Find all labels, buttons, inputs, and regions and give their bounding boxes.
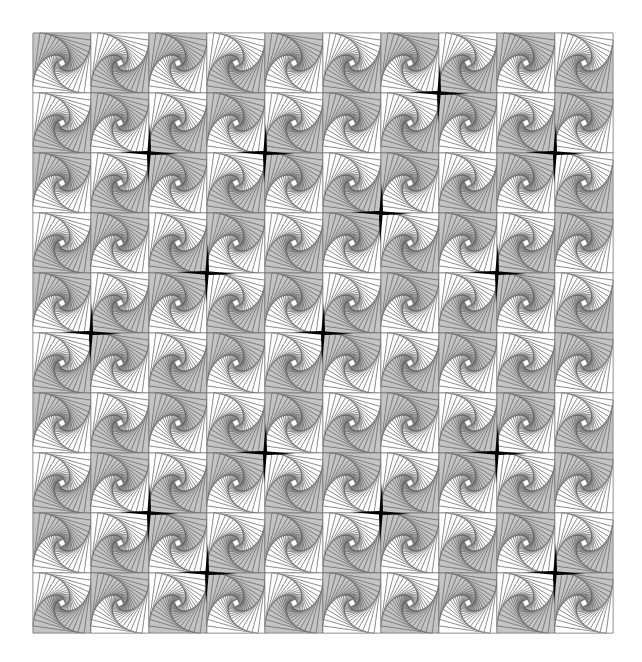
spiral-tile (323, 453, 381, 513)
spiral-tile (91, 513, 149, 573)
spiral-tile (381, 453, 439, 513)
spiral-tile (555, 213, 613, 273)
spiral-tile (555, 573, 613, 633)
spiral-tile (91, 213, 149, 273)
spiral-tile (381, 513, 439, 573)
spiral-tile (323, 153, 381, 213)
spiral-tile (265, 93, 323, 153)
spiral-tile (381, 573, 439, 633)
spiral-tile (33, 93, 91, 153)
spiral-tile (91, 573, 149, 633)
spiral-tile (497, 513, 555, 573)
spiral-tile (439, 513, 497, 573)
spiral-tile (555, 393, 613, 453)
spiral-tile (91, 93, 149, 153)
spiral-tile (149, 273, 207, 333)
spiral-tile (439, 93, 497, 153)
spiral-tile (555, 33, 613, 93)
spiral-tile (439, 273, 497, 333)
spiral-tile (149, 33, 207, 93)
spiral-tile (323, 33, 381, 93)
spiral-tile (91, 453, 149, 513)
spiral-tile (91, 33, 149, 93)
spiral-tile (207, 393, 265, 453)
spiral-tile (149, 393, 207, 453)
spiral-tile (149, 453, 207, 513)
spiral-tile (497, 273, 555, 333)
spiral-tile (323, 333, 381, 393)
spiral-tile (381, 213, 439, 273)
spiral-tile (33, 393, 91, 453)
spiral-tile (33, 573, 91, 633)
spiral-tile (265, 393, 323, 453)
spiral-tile (323, 393, 381, 453)
spiral-tile (207, 453, 265, 513)
spiral-tile (265, 333, 323, 393)
spiral-tile (439, 153, 497, 213)
spiral-tile (265, 153, 323, 213)
spiral-tile (497, 93, 555, 153)
spiral-tile (207, 33, 265, 93)
spiral-tile (497, 393, 555, 453)
spiral-tile (33, 513, 91, 573)
spiral-tile (381, 333, 439, 393)
spiral-tile (381, 153, 439, 213)
spiral-tile (439, 333, 497, 393)
spiral-tile (265, 453, 323, 513)
spiral-tile (497, 213, 555, 273)
spiral-tile (497, 333, 555, 393)
spiral-tile (207, 93, 265, 153)
spiral-tile (381, 273, 439, 333)
spiral-tile (149, 573, 207, 633)
spiral-tile (91, 393, 149, 453)
spiral-tile (555, 333, 613, 393)
spiral-tile (323, 513, 381, 573)
spiral-tile (33, 453, 91, 513)
spiral-tile (265, 33, 323, 93)
spiral-tile (91, 273, 149, 333)
spiral-tile (497, 573, 555, 633)
spiral-tile (439, 33, 497, 93)
spiral-tile (91, 333, 149, 393)
spiral-tile (555, 153, 613, 213)
spiral-tile (207, 153, 265, 213)
spiral-tile (265, 213, 323, 273)
spiral-tile (497, 453, 555, 513)
spiral-tile (265, 573, 323, 633)
spiral-tile (323, 93, 381, 153)
spiral-tile (555, 273, 613, 333)
spiral-tile (497, 33, 555, 93)
spiral-tile (381, 33, 439, 93)
spiral-tile (439, 573, 497, 633)
spiral-tile (149, 153, 207, 213)
spiral-tile (207, 513, 265, 573)
spiral-tile (323, 273, 381, 333)
spiral-tile (207, 213, 265, 273)
spiral-tile (381, 93, 439, 153)
spiral-tile (33, 333, 91, 393)
spiral-tile (381, 393, 439, 453)
spiral-tile (439, 393, 497, 453)
spiral-tile (555, 513, 613, 573)
spiral-tile (265, 513, 323, 573)
spiral-tiling-artwork (0, 0, 642, 662)
spiral-tile (497, 153, 555, 213)
spiral-tile (149, 333, 207, 393)
spiral-tile (149, 213, 207, 273)
spiral-tile (207, 333, 265, 393)
spiral-tile (323, 213, 381, 273)
spiral-tile (265, 273, 323, 333)
spiral-tile (33, 273, 91, 333)
spiral-tile (33, 33, 91, 93)
spiral-tile (33, 213, 91, 273)
spiral-tile (555, 453, 613, 513)
spiral-tile (439, 213, 497, 273)
spiral-tile (33, 153, 91, 213)
spiral-tile (207, 573, 265, 633)
spiral-tile (555, 93, 613, 153)
spiral-tile (323, 573, 381, 633)
spiral-tile (149, 513, 207, 573)
spiral-tile (149, 93, 207, 153)
spiral-tile (207, 273, 265, 333)
spiral-tile (439, 453, 497, 513)
